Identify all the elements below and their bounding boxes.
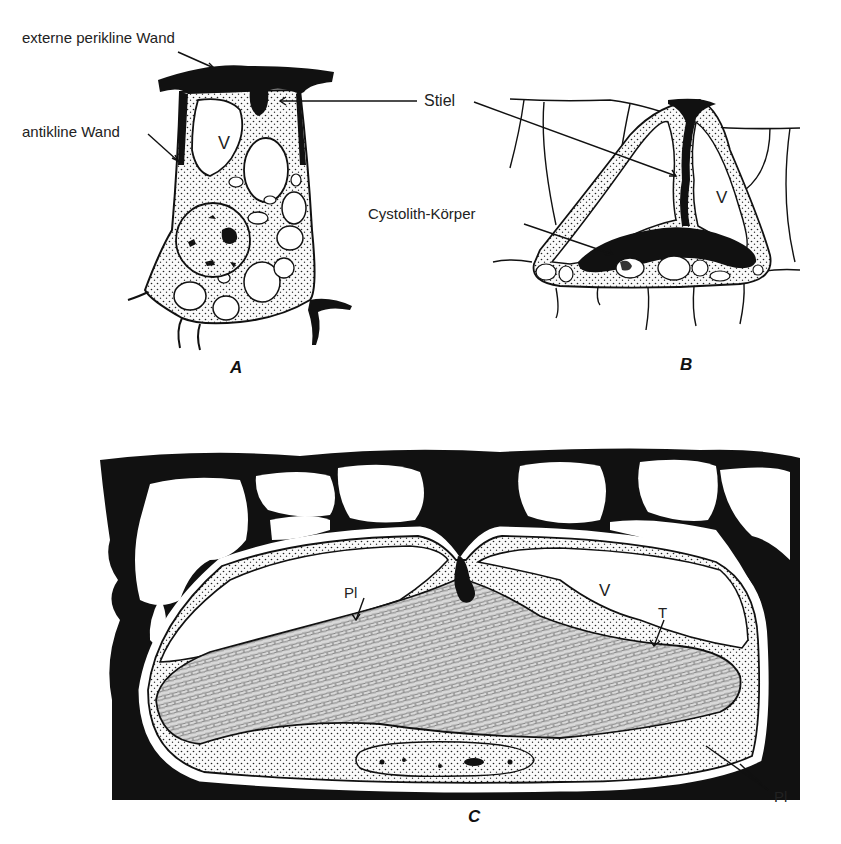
label-stalk: Stiel <box>424 93 455 109</box>
panel-b-drawing <box>493 99 800 330</box>
label-plasmalemma-2: Pl <box>774 788 787 805</box>
label-vacuole-a: V <box>218 133 230 154</box>
label-cystolith-body: Cystolith-Körper <box>368 206 476 221</box>
panel-a-drawing <box>128 65 352 350</box>
label-vacuole-c: V <box>599 581 610 601</box>
panel-label-a: A <box>230 358 242 378</box>
label-external-periclinal-wall: externe perikline Wand <box>22 30 175 45</box>
label-plasmalemma-1: Pl <box>344 584 357 601</box>
label-anticlinal-wall: antikline Wand <box>22 124 120 139</box>
label-tonoplast: T <box>658 604 667 621</box>
cystolith-illustration <box>0 0 841 844</box>
panel-label-c: C <box>468 807 480 827</box>
label-vacuole-b: V <box>716 188 727 208</box>
panel-c-drawing <box>100 448 800 800</box>
panel-label-b: B <box>680 355 692 375</box>
